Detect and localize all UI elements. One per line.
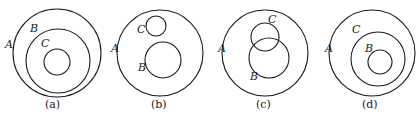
set-c-circle [44,49,70,75]
set-b-label: B [249,70,258,83]
set-b-label: B [364,42,373,55]
diagram-d: A C B (d) [324,10,415,111]
set-a-circle [13,9,101,97]
set-b-label: B [29,22,38,35]
set-c-label: C [41,37,50,50]
diagram-a: A B C (a) [4,9,101,111]
set-a-label: A [324,42,333,55]
set-c-circle [251,23,279,51]
set-a-label: A [217,42,226,55]
set-a-label: A [110,42,119,55]
caption-b: (b) [151,98,167,111]
caption-a: (a) [45,98,60,111]
set-c-circle [351,32,405,86]
set-c-label: C [352,23,361,36]
diagram-b: A C B (b) [110,10,203,111]
set-a-circle [117,10,203,96]
set-c-label: C [268,13,277,26]
caption-c: (c) [256,98,271,111]
set-c-label: C [137,23,146,36]
set-b-label: B [137,61,146,74]
caption-d: (d) [362,98,378,111]
set-b-circle [26,29,90,93]
set-c-circle [146,16,166,36]
venn-diagrams-figure: A B C (a) A C B (b) A C B (c) A C B (d) [0,0,420,120]
set-b-circle [145,42,181,78]
set-a-label: A [4,38,13,51]
diagram-c: A C B (c) [217,10,308,111]
